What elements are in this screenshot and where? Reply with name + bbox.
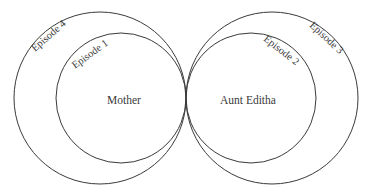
episode-1-label: Episode 1: [70, 37, 110, 70]
aunt-editha-label: Aunt Editha: [220, 94, 276, 106]
episode-3-label: Episode 3: [308, 19, 346, 55]
right-group: Episode 2 Episode 3 Aunt Editha: [186, 12, 358, 184]
episode-4-label: Episode 4: [29, 17, 68, 53]
episode-diagram: Episode 4 Episode 1 Mother Episode 2 Epi…: [0, 0, 371, 195]
mother-label: Mother: [107, 94, 141, 106]
left-group: Episode 4 Episode 1 Mother: [14, 12, 186, 184]
